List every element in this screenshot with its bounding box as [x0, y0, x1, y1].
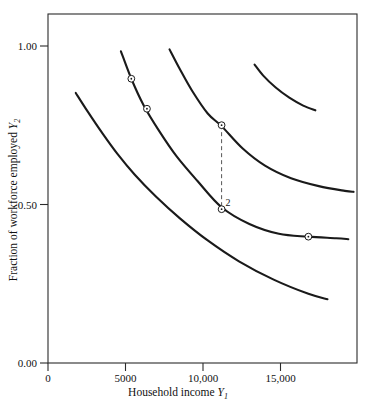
- curve-3: [170, 49, 354, 191]
- curve-1: [76, 93, 328, 299]
- y-tick-label-2: 0.50: [18, 199, 38, 211]
- x-axis-title-main: Household income: [128, 386, 215, 398]
- y-axis-title-var-sub: 2: [13, 119, 22, 123]
- indifference-curve-chart: 1.00 0.50 0.00 0 5000 10,000 15,000 Hous…: [0, 0, 373, 401]
- y-tick-label-3: 0.00: [18, 357, 38, 369]
- x-axis-title: Household income Y1: [128, 386, 228, 401]
- plot-frame: [48, 14, 357, 363]
- y-tick-label-1: 1.00: [18, 40, 38, 52]
- marker-e-center: [307, 236, 309, 238]
- annotation-group: 2: [222, 125, 231, 209]
- y-axis-ticks: [40, 46, 48, 363]
- x-axis-tick-labels: 0 5000 10,000 15,000: [45, 372, 296, 384]
- vertical-gap-label: 2: [226, 197, 231, 208]
- x-axis-ticks: [48, 363, 281, 371]
- y-axis-tick-labels: 1.00 0.50 0.00: [18, 40, 38, 369]
- chart-figure: 1.00 0.50 0.00 0 5000 10,000 15,000 Hous…: [0, 0, 373, 401]
- curve-2: [121, 51, 348, 239]
- marker-c-center: [221, 124, 223, 126]
- curve-4: [255, 65, 316, 111]
- marker-group: [128, 75, 312, 240]
- marker-b-center: [146, 108, 148, 110]
- marker-d-center: [221, 208, 223, 210]
- y-axis-title-main: Fraction of workforce employed: [7, 132, 20, 281]
- svg-text:Household income Y1: Household income Y1: [128, 386, 228, 401]
- x-tick-label-2: 5000: [115, 372, 138, 384]
- x-tick-label-4: 15,000: [265, 372, 296, 384]
- x-axis-title-var-sub: 1: [224, 392, 228, 401]
- marker-a-center: [130, 78, 132, 80]
- x-tick-label-3: 10,000: [188, 372, 219, 384]
- curve-group: [76, 49, 354, 299]
- x-tick-label-1: 0: [45, 372, 51, 384]
